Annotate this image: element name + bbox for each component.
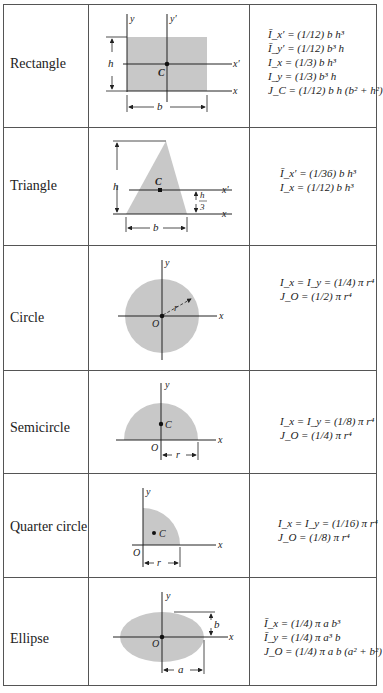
ellipse-figure: y x b O a [113,590,234,675]
label-x: x [217,434,223,445]
label-b: b [157,100,163,112]
label-b: b [214,618,220,630]
label-b: b [153,221,159,233]
label-h: h [108,57,114,69]
formula: J_O = (1/4) π a b (a² + b²) [264,644,382,658]
label-r: r [174,302,178,313]
label-r: r [176,449,180,460]
formula: J_O = (1/2) π r⁴ [280,289,374,303]
label-x: x [217,539,223,550]
formula: Ī_x′ = (1/36) b h³ [280,166,356,180]
label-y-prime: y′ [169,13,177,24]
formula: I_x = I_y = (1/8) π r⁴ [280,414,374,428]
formulas-ellipse: Ī_x = (1/4) π a b³ Ī_y = (1/4) π a³ b J_… [264,616,382,658]
formula: Ī_y′ = (1/12) b³ h [268,41,383,55]
label-h: h [113,180,119,192]
formula: I_x = (1/12) b h³ [280,180,356,194]
formula: Ī_y = (1/4) π a³ b [264,630,382,644]
label-x-prime: x′ [221,184,229,195]
label-o: O [133,547,140,558]
label-c: C [165,419,172,430]
formula: J_O = (1/8) π r⁴ [278,530,378,544]
formula: J_O = (1/4) π r⁴ [280,428,374,442]
formula: Ī_x = (1/4) π a b³ [264,616,382,630]
formulas-circle: I_x = I_y = (1/4) π r⁴ J_O = (1/2) π r⁴ [280,275,374,303]
label-x: x [221,208,227,219]
semicircle-figure: y x C O r [116,379,223,460]
formula: J_C = (1/12) b h (b² + h²) [268,83,383,97]
label-y: y [164,379,170,390]
label-h-num: h [200,190,205,200]
triangle-figure: h C x′ x h 3 b [113,141,232,233]
label-y: y [165,590,171,601]
formula: I_y = (1/3) b³ h [268,69,383,83]
label-o: O [152,318,159,329]
label-y: y [129,13,135,24]
label-y: y [164,257,170,268]
label-c: C [159,528,166,539]
label-x: x [218,310,224,321]
label-c: C [155,176,162,187]
label-r: r [157,557,161,568]
label-y: y [145,486,151,497]
label-o: O [152,638,159,649]
formula: I_x = I_y = (1/4) π r⁴ [280,275,374,289]
formulas-quarter-circle: I_x = I_y = (1/16) π r⁴ J_O = (1/8) π r⁴ [278,516,378,544]
label-x-prime: x′ [232,58,240,69]
formulas-rectangle: Ī_x′ = (1/12) b h³ Ī_y′ = (1/12) b³ h I_… [268,27,383,97]
circle-figure: y x r O [118,257,224,360]
quarter-circle-figure: y x C O r [132,486,223,568]
formula: I_x = I_y = (1/16) π r⁴ [278,516,378,530]
label-c: C [158,67,165,78]
label-x: x [232,85,238,96]
formula: I_x = (1/3) b h³ [268,55,383,69]
rectangle-figure: y y′ x′ x h b C [106,13,240,112]
label-a: a [178,663,184,675]
formula: Ī_x′ = (1/12) b h³ [268,27,383,41]
formulas-semicircle: I_x = I_y = (1/8) π r⁴ J_O = (1/4) π r⁴ [280,414,374,442]
label-h-den: 3 [199,202,205,212]
label-o: O [151,442,158,453]
label-x: x [228,631,234,642]
formulas-triangle: Ī_x′ = (1/36) b h³ I_x = (1/12) b h³ [280,166,356,194]
